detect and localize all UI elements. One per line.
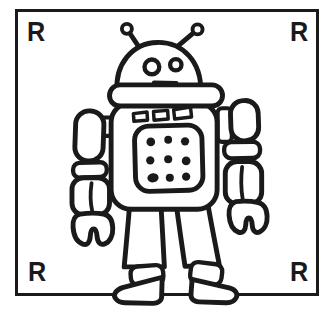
panel-dots	[146, 136, 190, 183]
robot-right-arm	[218, 100, 267, 232]
robot-right-eye	[170, 59, 181, 70]
robot-left-eye	[144, 60, 159, 75]
robot-left-arm	[72, 110, 114, 244]
robot-illustration	[18, 12, 333, 312]
robot-legs	[115, 198, 237, 303]
robot-control-panel	[134, 125, 203, 192]
flashcard-page: { "card": { "corner_letters": { "top_lef…	[0, 0, 333, 312]
robot-mouth	[154, 83, 176, 84]
card-frame: R R R R	[15, 9, 319, 296]
robot-collar	[109, 85, 222, 106]
